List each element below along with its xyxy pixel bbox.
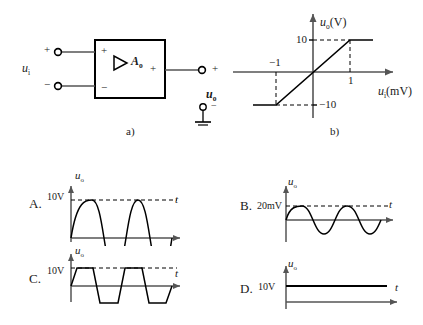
input-terminal-minus	[55, 83, 62, 90]
option-c-key: C.	[29, 272, 41, 285]
input-minus-sign: −	[44, 79, 50, 90]
option-b-waveform	[275, 182, 423, 252]
option-b-x-arrow	[386, 217, 393, 223]
input-plus-sign: +	[44, 44, 50, 55]
option-a-key: A.	[29, 197, 42, 210]
option-b-y-arrow	[283, 186, 289, 193]
chart-tick-label-neg1: −1	[269, 57, 281, 68]
option-d-level-label: 10V	[258, 282, 275, 292]
box-output-plus-sign: +	[150, 63, 156, 74]
option-d-x-arrow	[390, 299, 397, 305]
output-plus-sign: +	[212, 63, 218, 74]
chart-tick-label-1: 1	[348, 75, 354, 86]
box-minus-sign: −	[101, 82, 107, 93]
figure-a-caption: a)	[126, 126, 135, 137]
option-a-x-arrow	[173, 235, 180, 241]
option-d-y-arrow	[283, 266, 289, 273]
x-axis-arrow	[385, 69, 393, 76]
gain-label: Ao	[131, 55, 143, 70]
option-a-y-arrow	[68, 186, 74, 193]
input-terminal-plus	[55, 49, 62, 56]
chart-tick-label-10: 10	[296, 34, 307, 45]
input-voltage-label: ui	[22, 62, 30, 77]
option-c-waveform	[60, 250, 260, 312]
ground-minus-sign: −	[211, 101, 217, 111]
option-a-sine-curve	[71, 200, 172, 246]
chart-tick-label-neg10: −10	[319, 99, 336, 110]
option-d-waveform	[275, 264, 423, 319]
triangle-amplifier-icon	[114, 56, 127, 70]
output-terminal	[199, 67, 206, 74]
option-c-x-arrow	[173, 283, 180, 289]
option-a-waveform	[60, 176, 260, 246]
figure-sheet: + − ui + − + Ao + uo − a) uo(V) ui(mV) 1…	[0, 0, 423, 325]
option-b-key: B.	[240, 199, 252, 212]
figure-b-caption: b)	[330, 126, 339, 137]
chart-y-axis-label: uo(V)	[320, 16, 346, 31]
ground-terminal	[200, 104, 206, 110]
chart-x-axis-label: ui(mV)	[378, 85, 412, 100]
option-d-key: D.	[240, 282, 253, 295]
option-c-y-arrow	[68, 254, 74, 261]
box-plus-sign: +	[101, 45, 107, 56]
y-axis-arrow	[310, 14, 317, 22]
